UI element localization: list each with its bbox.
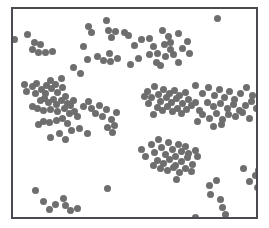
data-point [68, 127, 75, 134]
data-point [150, 111, 157, 118]
data-point [88, 29, 95, 36]
data-point [194, 153, 201, 160]
data-point [49, 48, 56, 55]
data-point [42, 49, 49, 56]
data-point [74, 113, 81, 120]
data-point [47, 134, 54, 141]
data-point [58, 75, 65, 82]
data-point [112, 28, 119, 35]
data-point [210, 123, 217, 130]
data-point [213, 177, 220, 184]
data-point [192, 99, 199, 106]
data-point [96, 102, 103, 109]
data-point [53, 117, 60, 124]
data-point [37, 41, 44, 48]
data-point [127, 61, 134, 68]
data-point [167, 39, 174, 46]
data-point [142, 153, 149, 160]
data-point [54, 108, 61, 115]
data-point [62, 93, 69, 100]
data-point [52, 81, 59, 88]
data-point [182, 143, 189, 150]
data-point [199, 90, 206, 97]
data-point [179, 45, 186, 52]
data-point [175, 59, 182, 66]
data-point [192, 214, 199, 218]
data-point [85, 98, 92, 105]
data-point [239, 109, 246, 116]
data-point [107, 58, 114, 65]
data-point [99, 113, 106, 120]
scatter-plot-figure [0, 0, 269, 228]
data-point [108, 34, 115, 41]
data-point [189, 161, 196, 168]
data-point [131, 42, 138, 49]
data-point [240, 165, 247, 172]
data-point [194, 118, 201, 125]
data-point [106, 50, 113, 57]
data-point [148, 141, 155, 148]
data-point [165, 139, 172, 146]
data-point [151, 83, 158, 90]
data-point [222, 211, 229, 217]
data-point [155, 136, 162, 143]
plot-frame [11, 7, 258, 219]
data-point [213, 110, 220, 117]
data-point [150, 43, 157, 50]
data-point [192, 82, 199, 89]
data-point [184, 38, 191, 45]
data-point [62, 136, 69, 143]
data-point [159, 27, 166, 34]
data-point [225, 111, 232, 118]
data-point [154, 50, 161, 57]
data-point [219, 204, 226, 211]
data-point [182, 89, 189, 96]
data-point [157, 165, 164, 172]
data-point [206, 182, 213, 189]
data-point [157, 62, 164, 69]
data-point [254, 184, 256, 191]
data-points-layer [13, 9, 256, 217]
data-point [146, 51, 153, 58]
data-point [255, 167, 256, 174]
data-point [151, 149, 158, 156]
data-point [217, 100, 224, 107]
data-point [21, 81, 28, 88]
data-point [24, 31, 31, 38]
data-point [60, 195, 67, 202]
data-point [32, 187, 39, 194]
data-point [243, 84, 250, 91]
data-point [74, 205, 81, 212]
data-point [248, 98, 255, 105]
data-point [232, 113, 239, 120]
data-point [217, 196, 224, 203]
data-point [211, 92, 218, 99]
data-point [175, 141, 182, 148]
data-point [100, 57, 107, 64]
data-point [70, 97, 77, 104]
data-point [237, 90, 244, 97]
data-point [56, 130, 63, 137]
data-point [186, 50, 193, 57]
data-point [40, 107, 47, 114]
data-point [135, 55, 142, 62]
data-point [125, 32, 132, 39]
data-point [230, 101, 237, 108]
data-point [169, 146, 176, 153]
data-point [226, 88, 233, 95]
data-point [52, 201, 59, 208]
data-point [35, 121, 42, 128]
data-point [214, 15, 221, 22]
data-point [216, 86, 223, 93]
data-point [170, 51, 177, 58]
data-point [47, 106, 54, 113]
data-point [206, 115, 213, 122]
data-point [103, 106, 110, 113]
data-point [146, 35, 153, 42]
data-point [104, 185, 111, 192]
data-point [246, 115, 253, 122]
data-point [205, 84, 212, 91]
data-point [76, 125, 83, 132]
data-point [84, 56, 91, 63]
data-point [218, 121, 225, 128]
